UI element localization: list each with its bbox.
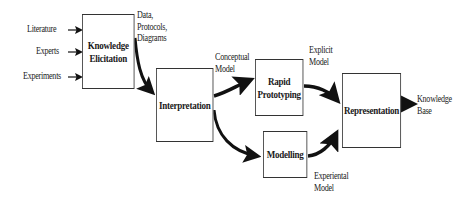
edge-label-data-protocols-diagrams: Data, Protocols, Diagrams [137,10,167,45]
input-label-experiments: Experiments [23,71,61,83]
arrow-prototyping-to-representation [304,86,337,100]
input-label-literature: Literature [27,24,56,36]
input-label-experts: Experts [36,46,59,58]
arrow-modelling-to-representation [308,134,336,156]
output-label-knowledge-base: Knowledge Base [417,94,452,117]
node-knowledge-elicitation: Knowledge Elicitation [82,14,134,89]
diagram-arrows [0,0,473,208]
edge-label-experiental-model: Experiental Model [314,171,348,194]
arrow-interpretation-to-modelling [214,110,257,156]
edge-label-conceptual-model: Conceptual Model [215,52,249,75]
edge-label-explicit-model: Explicit Model [309,45,333,68]
node-interpretation: Interpretation [156,68,213,142]
node-rapid-prototyping: Rapid Prototyping [255,59,303,116]
node-modelling: Modelling [263,131,307,178]
arrow-interpretation-to-prototyping [214,80,250,96]
arrow-elicitation-to-interpretation [135,38,152,92]
node-representation: Representation [342,73,401,148]
